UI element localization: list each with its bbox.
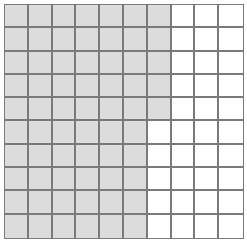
grid-cell-shaded [29, 52, 53, 75]
grid-cell-shaded [53, 28, 77, 51]
grid-cell-empty [219, 215, 243, 238]
grid-cell-shaded [100, 5, 124, 28]
grid-cell-shaded [76, 168, 100, 191]
grid-cell-shaded [100, 215, 124, 238]
grid-cell-shaded [29, 168, 53, 191]
grid-cell-shaded [53, 145, 77, 168]
grid-cell-empty [195, 168, 219, 191]
grid-cell-shaded [5, 75, 29, 98]
grid-cell-shaded [53, 75, 77, 98]
grid-cell-shaded [76, 28, 100, 51]
grid-cell-shaded [53, 168, 77, 191]
grid-cell-shaded [76, 98, 100, 121]
grid-cell-shaded [100, 191, 124, 214]
grid-cell-empty [172, 121, 196, 144]
grid-cell-shaded [29, 145, 53, 168]
grid-cell-shaded [100, 28, 124, 51]
grid-cell-empty [195, 191, 219, 214]
grid-cell-empty [219, 168, 243, 191]
grid-cell-shaded [29, 98, 53, 121]
grid-cell-empty [219, 5, 243, 28]
grid-cell-shaded [148, 52, 172, 75]
grid-cell-empty [195, 121, 219, 144]
grid-cell-shaded [100, 121, 124, 144]
grid-cell-shaded [53, 52, 77, 75]
grid-cell-empty [219, 98, 243, 121]
grid-cell-empty [219, 191, 243, 214]
hundred-grid [4, 4, 244, 239]
grid-cell-shaded [76, 215, 100, 238]
grid-cell-shaded [5, 145, 29, 168]
grid-cell-empty [148, 121, 172, 144]
grid-cell-shaded [53, 98, 77, 121]
grid-cell-empty [172, 215, 196, 238]
grid-cell-shaded [148, 98, 172, 121]
grid-cell-shaded [100, 98, 124, 121]
grid-cell-empty [195, 75, 219, 98]
grid-cell-shaded [100, 168, 124, 191]
grid-cell-empty [195, 52, 219, 75]
grid-cell-empty [172, 28, 196, 51]
grid-cell-shaded [29, 121, 53, 144]
grid-cell-shaded [5, 5, 29, 28]
grid-cell-empty [195, 28, 219, 51]
grid-cell-shaded [76, 145, 100, 168]
grid-cell-empty [172, 98, 196, 121]
grid-cell-empty [172, 75, 196, 98]
grid-cell-empty [195, 145, 219, 168]
grid-cell-shaded [53, 215, 77, 238]
grid-cell-empty [172, 5, 196, 28]
grid-cell-shaded [29, 191, 53, 214]
grid-cell-shaded [124, 168, 148, 191]
grid-cell-shaded [53, 191, 77, 214]
grid-cell-empty [172, 145, 196, 168]
grid-cell-shaded [5, 121, 29, 144]
grid-cell-shaded [5, 28, 29, 51]
grid-cell-shaded [124, 191, 148, 214]
grid-cell-shaded [76, 52, 100, 75]
grid-cell-shaded [5, 168, 29, 191]
grid-cell-empty [172, 52, 196, 75]
grid-cell-shaded [29, 28, 53, 51]
grid-cell-empty [219, 121, 243, 144]
grid-cell-shaded [124, 121, 148, 144]
grid-cell-shaded [53, 5, 77, 28]
grid-cell-shaded [76, 191, 100, 214]
grid-cell-shaded [53, 121, 77, 144]
grid-cell-shaded [124, 75, 148, 98]
grid-cell-shaded [5, 98, 29, 121]
grid-cell-empty [195, 5, 219, 28]
grid-cell-empty [148, 191, 172, 214]
grid-cell-empty [195, 98, 219, 121]
grid-cell-shaded [100, 145, 124, 168]
grid-cell-empty [148, 215, 172, 238]
grid-cell-shaded [5, 191, 29, 214]
grid-cell-shaded [124, 28, 148, 51]
grid-cell-shaded [76, 121, 100, 144]
grid-cell-shaded [124, 5, 148, 28]
grid-cell-empty [172, 191, 196, 214]
grid-cell-shaded [76, 75, 100, 98]
grid-cell-shaded [5, 52, 29, 75]
grid-cell-empty [172, 168, 196, 191]
grid-cell-empty [219, 28, 243, 51]
grid-cell-empty [219, 75, 243, 98]
grid-cell-shaded [29, 5, 53, 28]
grid-cell-shaded [5, 215, 29, 238]
grid-cell-shaded [124, 215, 148, 238]
grid-cell-shaded [29, 75, 53, 98]
grid-cell-shaded [76, 5, 100, 28]
grid-cell-empty [148, 168, 172, 191]
grid-cell-empty [148, 145, 172, 168]
grid-cell-empty [219, 145, 243, 168]
grid-cell-shaded [124, 98, 148, 121]
grid-cell-shaded [100, 52, 124, 75]
grid-cell-shaded [148, 5, 172, 28]
grid-cell-shaded [100, 75, 124, 98]
grid-cell-shaded [124, 145, 148, 168]
grid-cell-shaded [148, 75, 172, 98]
grid-cell-shaded [124, 52, 148, 75]
grid-cell-empty [219, 52, 243, 75]
grid-cell-empty [195, 215, 219, 238]
grid-cell-shaded [29, 215, 53, 238]
